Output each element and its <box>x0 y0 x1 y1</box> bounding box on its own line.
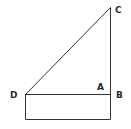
label-c: C <box>115 5 122 15</box>
geometry-diagram: C D A B <box>0 0 131 129</box>
label-b: B <box>116 90 123 100</box>
label-a: A <box>97 82 104 92</box>
label-d: D <box>10 90 17 100</box>
